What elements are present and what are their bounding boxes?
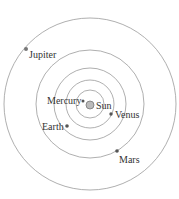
mars-planet-icon	[115, 149, 119, 153]
solar-system-diagram: Sun Mercury Venus Earth Mars Jupiter	[0, 0, 179, 199]
venus-planet-icon	[109, 112, 112, 115]
jupiter-planet-icon	[24, 47, 28, 51]
sun-icon	[86, 101, 94, 109]
venus-label: Venus	[115, 109, 140, 120]
mercury-label: Mercury	[47, 95, 81, 106]
mars-label: Mars	[119, 154, 140, 165]
earth-label: Earth	[42, 121, 64, 132]
sun-label: Sun	[96, 100, 112, 111]
jupiter-label: Jupiter	[29, 49, 57, 60]
earth-planet-icon	[65, 124, 69, 128]
mercury-planet-icon	[82, 100, 85, 103]
